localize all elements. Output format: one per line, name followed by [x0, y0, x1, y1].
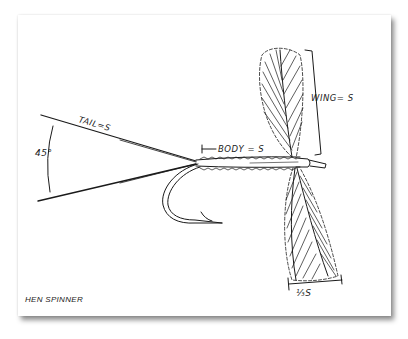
hen-spinner-fly-diagram: TAIL=S 45° BODY = S WING= S ⅓S — [0, 0, 408, 339]
lower-wing — [285, 168, 338, 281]
upper-wing — [260, 48, 303, 158]
figure-caption: HEN SPINNER — [25, 295, 83, 304]
tail-label: TAIL=S — [77, 114, 112, 133]
wing-label: WING= S — [311, 93, 354, 103]
body-bracket — [202, 145, 216, 153]
body-label: BODY = S — [218, 144, 264, 154]
hook — [163, 164, 222, 223]
angle-arc — [48, 126, 53, 192]
fly-body — [196, 157, 326, 170]
angle-label: 45° — [35, 148, 52, 158]
hackle-label: ⅓S — [296, 288, 311, 298]
